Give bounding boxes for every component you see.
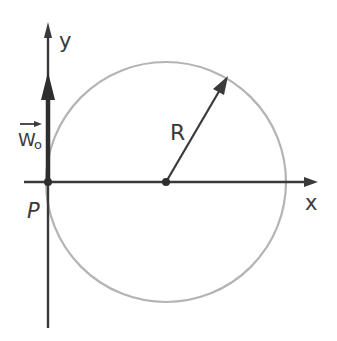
velocity-vector-w0 [41, 72, 55, 182]
velocity-arrowhead-icon [41, 72, 55, 100]
radius-label: R [170, 120, 185, 145]
x-axis [24, 177, 318, 187]
diagram-canvas: y x P R W o [0, 0, 337, 341]
x-axis-label: x [305, 191, 317, 215]
velocity-label: W o [18, 121, 42, 152]
velocity-label-subscript: o [34, 137, 42, 152]
x-axis-arrowhead-icon [304, 177, 318, 187]
origin-label: P [27, 199, 40, 223]
radius-arrowhead-icon [213, 76, 228, 95]
vector-overarrow-icon [34, 121, 42, 127]
y-axis-label: y [59, 29, 71, 53]
y-axis-arrowhead-icon [44, 22, 52, 38]
origin-point-p [44, 178, 52, 186]
circle-center-point [162, 178, 170, 186]
